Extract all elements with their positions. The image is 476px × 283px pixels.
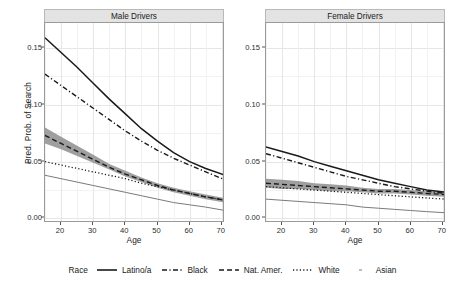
y-tick-mark — [262, 47, 265, 48]
legend-key-solid-icon — [97, 265, 117, 275]
y-tick-label: 0.15 — [16, 43, 42, 52]
y-tick-mark — [262, 160, 265, 161]
x-tick-mark — [345, 222, 346, 225]
series-layer — [45, 23, 224, 222]
facet-strip-female: Female Drivers — [265, 9, 445, 22]
y-tick-label: 0.10 — [16, 99, 42, 108]
x-tick-mark — [60, 222, 61, 225]
x-tick-label: 50 — [373, 226, 381, 235]
legend-item[interactable]: Asian — [351, 265, 397, 275]
legend-title: Race — [69, 265, 88, 275]
x-tick-mark — [442, 222, 443, 225]
y-tick-label: 0.05 — [16, 156, 42, 165]
legend-item[interactable]: Black — [162, 265, 207, 275]
facet-title-male: Male Drivers — [45, 12, 223, 21]
x-tick-mark — [92, 222, 93, 225]
y-tick-label: 0.05 — [245, 156, 260, 165]
x-tick-mark — [157, 222, 158, 225]
facet-strip-male: Male Drivers — [44, 9, 224, 22]
series-line — [45, 38, 224, 176]
facet-panel-female: Female Drivers Age 2030405060700.000.050… — [265, 22, 445, 222]
x-tick-label: 40 — [120, 226, 128, 235]
x-tick-label: 30 — [88, 226, 96, 235]
x-tick-label: 60 — [405, 226, 413, 235]
x-tick-label: 20 — [56, 226, 64, 235]
legend-label: Black — [187, 265, 207, 275]
x-tick-mark — [221, 222, 222, 225]
x-tick-label: 50 — [152, 226, 160, 235]
y-axis-tick-labels: 0.000.050.100.15 — [14, 0, 42, 283]
series-line — [266, 199, 445, 213]
x-tick-mark — [281, 222, 282, 225]
y-tick-mark — [41, 47, 44, 48]
plot-area-male — [44, 22, 224, 222]
legend-label: Asian — [376, 265, 397, 275]
legend-key-dashdot-icon — [162, 265, 182, 275]
chart-figure: Pred. Prob. of Search 0.000.050.100.15 M… — [0, 0, 476, 283]
legend-key-thinsolid-icon — [351, 265, 371, 275]
y-tick-label: 0.15 — [245, 43, 260, 52]
facet-panel-male: Male Drivers Age 203040506070 — [44, 22, 224, 222]
x-tick-label: 40 — [341, 226, 349, 235]
legend-key-dashed-icon — [219, 265, 239, 275]
x-tick-mark — [124, 222, 125, 225]
series-line — [45, 74, 224, 180]
x-tick-label: 30 — [309, 226, 317, 235]
y-tick-mark — [262, 217, 265, 218]
x-tick-label: 70 — [217, 226, 225, 235]
legend-label: Latino/a — [122, 265, 152, 275]
x-tick-label: 70 — [438, 226, 446, 235]
legend: Race Latino/aBlackNat. Amer.WhiteAsian — [0, 262, 476, 278]
legend-item[interactable]: Latino/a — [97, 265, 152, 275]
y-tick-mark — [262, 103, 265, 104]
legend-label: Nat. Amer. — [244, 265, 283, 275]
plot-area-female — [265, 22, 445, 222]
legend-item[interactable]: Nat. Amer. — [219, 265, 283, 275]
x-axis-title-male: Age — [44, 235, 224, 245]
legend-key-dotted-icon — [293, 265, 313, 275]
x-tick-label: 60 — [184, 226, 192, 235]
x-tick-mark — [378, 222, 379, 225]
y-tick-mark — [41, 160, 44, 161]
y-tick-mark — [41, 103, 44, 104]
x-tick-mark — [313, 222, 314, 225]
legend-label: White — [318, 265, 339, 275]
y-tick-label: 0.00 — [16, 213, 42, 222]
y-tick-label: 0.00 — [245, 213, 260, 222]
x-tick-mark — [410, 222, 411, 225]
legend-item[interactable]: White — [293, 265, 339, 275]
y-tick-mark — [41, 217, 44, 218]
x-axis-title-female: Age — [265, 235, 445, 245]
x-tick-mark — [189, 222, 190, 225]
y-tick-label: 0.10 — [245, 99, 260, 108]
series-layer — [266, 23, 445, 222]
x-tick-label: 20 — [277, 226, 285, 235]
facet-title-female: Female Drivers — [266, 12, 444, 21]
